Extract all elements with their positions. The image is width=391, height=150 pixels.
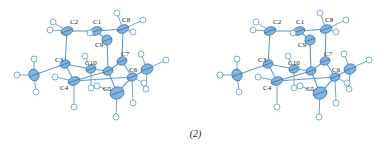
bond <box>268 31 270 64</box>
atom-label: C10 <box>288 59 300 67</box>
hydrogen-atom <box>333 100 339 106</box>
atom-label: C8 <box>122 16 131 24</box>
hydrogen-atom <box>250 27 256 33</box>
hydrogen-atom <box>130 100 136 106</box>
atom-label: C9 <box>95 41 104 49</box>
hydrogen-atom <box>217 72 223 78</box>
atom-label: C4 <box>60 84 69 92</box>
hydrogen-atom <box>366 57 372 63</box>
hydrogen-atom <box>255 74 261 80</box>
atom-label: C5 <box>306 85 315 93</box>
hydrogen-atom <box>344 80 350 86</box>
hydrogen-atom <box>52 74 58 80</box>
atom-label: C2 <box>273 18 282 26</box>
atom-label: C8 <box>325 16 334 24</box>
atom-label: C10 <box>85 59 97 67</box>
right-stereo-view: C1C2C3C4C5C6C7C8C9C10 <box>217 10 372 120</box>
hydrogen-atom <box>31 56 37 62</box>
hydrogen-atom <box>333 29 339 35</box>
hydrogen-atom <box>317 10 323 16</box>
hydrogen-atom <box>87 30 93 36</box>
atom-label: C2 <box>70 18 79 26</box>
hydrogen-atom <box>234 56 240 62</box>
hydrogen-atom <box>163 57 169 63</box>
atom-label: C4 <box>263 84 272 92</box>
hydrogen-atom <box>94 83 100 89</box>
atom-label: C9 <box>298 41 307 49</box>
hydrogen-atom <box>141 80 147 86</box>
atom-label: C1 <box>93 18 102 26</box>
atom-label: C1 <box>296 18 305 26</box>
hydrogen-atom <box>341 51 347 57</box>
hydrogen-atom <box>143 86 149 92</box>
hydrogen-atom <box>290 30 296 36</box>
hydrogen-atom <box>47 27 53 33</box>
atom-label: C5 <box>103 85 112 93</box>
hydrogen-atom <box>138 51 144 57</box>
hydrogen-atom <box>130 29 136 35</box>
atom-label: C3 <box>55 56 64 64</box>
hydrogen-atom <box>253 19 259 25</box>
hydrogen-atom <box>236 89 242 95</box>
atom-label: C7 <box>121 50 130 58</box>
atom-label: C6 <box>332 66 341 74</box>
hydrogen-atom <box>274 104 280 110</box>
hydrogen-atom <box>113 114 119 120</box>
hydrogen-atom <box>33 89 39 95</box>
hydrogen-atom <box>343 17 349 23</box>
hydrogen-atom <box>114 10 120 16</box>
hydrogen-atom <box>14 72 20 78</box>
atom-label: C7 <box>324 50 333 58</box>
figure-caption: (2) <box>0 128 391 139</box>
hydrogen-atom <box>71 104 77 110</box>
hydrogen-atom <box>297 83 303 89</box>
hydrogen-atom <box>316 114 322 120</box>
hydrogen-atom <box>88 85 94 91</box>
hydrogen-atom <box>50 19 56 25</box>
atom-label: C3 <box>258 56 267 64</box>
hydrogen-atom <box>291 85 297 91</box>
hydrogen-atom <box>140 17 146 23</box>
bond <box>65 31 67 64</box>
atom-label: C6 <box>129 66 138 74</box>
hydrogen-atom <box>346 86 352 92</box>
left-stereo-view: C1C2C3C4C5C6C7C8C9C10 <box>14 10 169 120</box>
